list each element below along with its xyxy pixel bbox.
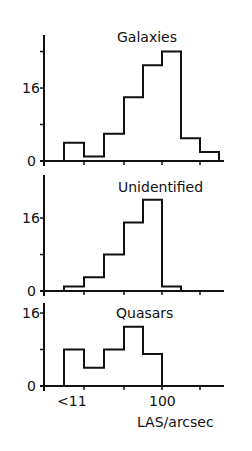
y-tick-label-0: 0: [27, 378, 36, 394]
panel-unidentified: 160Unidentified: [22, 175, 224, 299]
panel-title: Galaxies: [117, 29, 177, 45]
y-tick-label-16: 16: [22, 305, 40, 321]
y-tick-label-16: 16: [22, 210, 40, 226]
panel-title: Quasars: [116, 305, 173, 321]
histogram-bars: [64, 52, 219, 161]
y-tick-label-0: 0: [27, 153, 36, 169]
y-tick-label-16: 16: [22, 80, 40, 96]
histogram-bars: [64, 200, 181, 291]
histogram-chart: 160Galaxies160Unidentified160Quasars <11…: [0, 0, 252, 451]
x-tick-label-first: <11: [57, 393, 87, 409]
x-axis-label: LAS/arcsec: [137, 414, 214, 430]
histogram-bars: [64, 327, 162, 386]
panel-galaxies: 160Galaxies: [22, 29, 224, 169]
x-tick-label-100: 100: [149, 393, 176, 409]
y-tick-label-0: 0: [27, 283, 36, 299]
panel-title: Unidentified: [118, 179, 203, 195]
panel-quasars: 160Quasars: [22, 303, 224, 394]
